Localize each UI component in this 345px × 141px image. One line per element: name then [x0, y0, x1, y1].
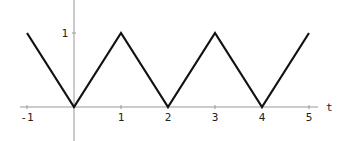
x-tick-label: 2 — [165, 111, 172, 124]
x-tick-label: -1 — [20, 111, 33, 124]
x-tick-label: 1 — [118, 111, 125, 124]
data-line — [27, 33, 309, 107]
x-tick-label: 3 — [212, 111, 219, 124]
y-tick-label: 1 — [61, 27, 68, 40]
x-axis-label: t — [326, 101, 333, 114]
x-tick-label: 4 — [259, 111, 266, 124]
x-tick-label: 5 — [306, 111, 313, 124]
triangle-wave-plot: -1 1 2 3 4 5 1 t — [0, 0, 345, 141]
